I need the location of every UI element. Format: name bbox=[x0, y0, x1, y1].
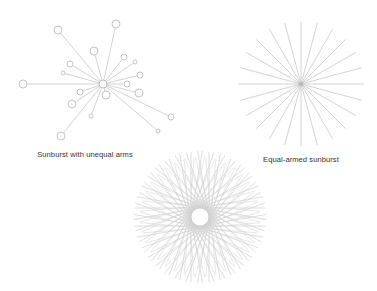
node-circle bbox=[57, 132, 65, 140]
node-circle bbox=[135, 89, 143, 97]
node-circle bbox=[137, 72, 143, 78]
node-circle bbox=[77, 89, 83, 95]
node-circle bbox=[112, 20, 120, 28]
arm-line bbox=[103, 84, 168, 116]
node-circle bbox=[124, 81, 130, 87]
node-circle bbox=[121, 54, 127, 60]
node-circle bbox=[156, 129, 160, 133]
tangent-star-diagram bbox=[134, 151, 266, 283]
spoke-line bbox=[301, 68, 362, 84]
spoke-line bbox=[240, 68, 301, 84]
unequal-sunburst-caption: Sunburst with unequal arms bbox=[37, 150, 133, 159]
arm-line bbox=[65, 74, 103, 84]
node-circle bbox=[61, 71, 65, 75]
node-circle bbox=[54, 26, 62, 34]
arm-line bbox=[103, 63, 133, 84]
equal-armed-sunburst-caption: Equal-armed sunburst bbox=[263, 155, 339, 164]
node-circle bbox=[19, 80, 27, 88]
spoke-line bbox=[301, 84, 317, 145]
arm-line bbox=[92, 84, 103, 114]
hub-circle bbox=[99, 80, 107, 88]
unequal-sunburst-diagram bbox=[19, 20, 174, 140]
diagram-canvas bbox=[0, 0, 377, 291]
node-circle bbox=[102, 91, 110, 99]
center-hole bbox=[192, 209, 208, 225]
spoke-line bbox=[240, 84, 301, 100]
node-circle bbox=[90, 47, 98, 55]
spoke-line bbox=[301, 84, 362, 100]
node-circle bbox=[67, 61, 73, 67]
spoke-line bbox=[301, 23, 317, 84]
spoke-line bbox=[285, 84, 301, 145]
node-circle bbox=[168, 114, 174, 120]
node-circle bbox=[89, 114, 93, 118]
arm-line bbox=[61, 33, 103, 84]
spoke-line bbox=[285, 23, 301, 84]
node-circle bbox=[68, 100, 76, 108]
node-circle bbox=[133, 60, 137, 64]
hub-dot bbox=[299, 82, 303, 86]
equal-armed-sunburst-diagram bbox=[238, 21, 364, 147]
